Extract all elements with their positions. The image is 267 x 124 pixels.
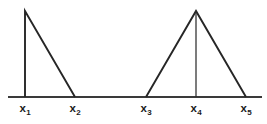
figure-root: x1 x2 x3 x4 x5 [0,0,267,124]
triangle-plot-svg [0,0,267,124]
plot-background [0,0,267,124]
